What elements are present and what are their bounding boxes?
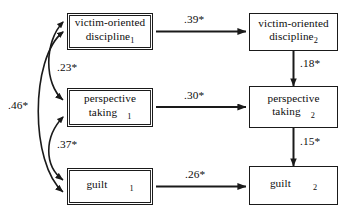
- node-perspective-taking-1[interactable]: perspective taking1: [67, 88, 153, 127]
- node-label-line1: victim-oriented: [75, 16, 145, 30]
- node-label-line2: taking2: [272, 105, 315, 123]
- node-victim-oriented-discipline-1[interactable]: victim-oriented discipline1: [67, 13, 153, 50]
- correlation-label-pt-guilt: .37*: [57, 138, 77, 150]
- correlation-label-vod-pt: .23*: [57, 61, 77, 73]
- node-subscript: 2: [314, 36, 318, 45]
- path-label-vod-to-pt: .18*: [300, 57, 320, 69]
- node-label-line2: guilt2: [270, 177, 317, 195]
- path-label-vod: .39*: [184, 13, 204, 25]
- path-label-pt-to-guilt: .15*: [300, 135, 320, 147]
- node-subscript: 1: [117, 112, 131, 121]
- correlation-label-vod-guilt: .46*: [8, 99, 28, 111]
- node-guilt-2[interactable]: guilt2: [249, 166, 338, 205]
- node-label-line2: guilt1: [86, 178, 133, 196]
- path-label-guilt: .26*: [185, 168, 205, 180]
- path-diagram: victim-oriented discipline1 perspective …: [0, 0, 357, 215]
- node-subscript: 1: [130, 36, 134, 45]
- path-label-pt: .30*: [184, 89, 204, 101]
- node-subscript: 1: [107, 184, 133, 193]
- node-perspective-taking-2[interactable]: perspective taking2: [249, 86, 338, 128]
- node-label-line1: perspective: [84, 92, 136, 106]
- node-label-line2: discipline1: [86, 30, 135, 48]
- node-label-line1: perspective: [267, 92, 319, 106]
- node-subscript: 2: [291, 183, 317, 192]
- node-label-line2: discipline2: [269, 30, 318, 48]
- node-guilt-1[interactable]: guilt1: [67, 168, 153, 205]
- node-subscript: 2: [301, 111, 315, 120]
- node-victim-oriented-discipline-2[interactable]: victim-oriented discipline2: [249, 13, 338, 51]
- node-label-line1: victim-oriented: [258, 17, 328, 31]
- node-label-line2: taking1: [89, 106, 132, 124]
- curve-vod-guilt: [38, 32, 63, 192]
